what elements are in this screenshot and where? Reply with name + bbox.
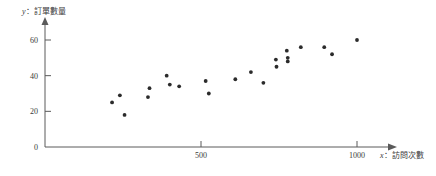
data-point bbox=[355, 38, 359, 42]
data-point bbox=[123, 113, 127, 117]
data-point bbox=[330, 52, 334, 56]
data-point bbox=[207, 92, 211, 96]
x-tick-label: 500 bbox=[195, 151, 207, 160]
y-axis-arrow-icon bbox=[42, 17, 49, 25]
data-point bbox=[233, 77, 237, 81]
y-tick-label: 0 bbox=[34, 143, 38, 152]
data-point-group bbox=[110, 38, 359, 117]
data-point bbox=[285, 49, 289, 53]
data-point bbox=[146, 95, 150, 99]
data-point bbox=[165, 74, 169, 78]
y-tick-label: 40 bbox=[30, 72, 38, 81]
data-point bbox=[274, 58, 278, 62]
axes-group bbox=[42, 17, 398, 151]
x-axis-title-text: ：訪問次數 bbox=[384, 151, 424, 160]
data-point bbox=[177, 84, 181, 88]
data-point bbox=[249, 70, 253, 74]
data-point bbox=[110, 101, 114, 105]
data-point bbox=[204, 79, 208, 83]
y-tick-label: 20 bbox=[30, 107, 38, 116]
data-point bbox=[148, 86, 152, 90]
data-point bbox=[322, 45, 326, 49]
y-tick-label: 60 bbox=[30, 36, 38, 45]
data-point bbox=[299, 45, 303, 49]
scatter-plot-figure: 0204060 5001000 y：訂單數量 x：訪問次數 bbox=[0, 0, 436, 176]
y-axis-title: y：訂單數量 bbox=[22, 8, 66, 16]
y-tick-group: 0204060 bbox=[30, 36, 51, 152]
data-point bbox=[168, 83, 172, 87]
x-tick-group: 5001000 bbox=[195, 141, 365, 160]
x-tick-label: 1000 bbox=[349, 151, 365, 160]
data-point bbox=[286, 56, 290, 60]
data-point bbox=[262, 81, 266, 85]
y-axis-title-text: ：訂單數量 bbox=[26, 7, 66, 16]
x-axis-title: x：訪問次數 bbox=[380, 152, 424, 160]
x-axis-arrow-icon bbox=[388, 144, 397, 151]
data-point bbox=[275, 65, 279, 69]
data-point bbox=[286, 60, 290, 64]
plot-canvas: 0204060 5001000 bbox=[0, 0, 436, 176]
data-point bbox=[118, 93, 122, 97]
